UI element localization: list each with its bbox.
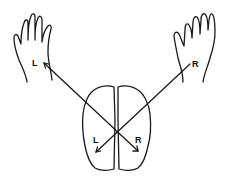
brain-left-label: L <box>93 135 99 145</box>
arrow-left-hand-to-right-hemisphere <box>44 63 138 151</box>
right-hand-icon <box>174 14 215 82</box>
left-hand-icon <box>14 14 52 82</box>
arrow-right-hand-to-left-hemisphere <box>96 64 190 152</box>
diagram-canvas: L R L R <box>0 0 230 189</box>
right-hand-label: R <box>192 59 199 69</box>
diagram-svg: L R L R <box>0 0 230 189</box>
brain-left-hemisphere <box>83 86 115 170</box>
brain-icon <box>83 86 151 170</box>
brain-right-hemisphere <box>118 86 151 170</box>
left-hand-label: L <box>32 58 38 68</box>
brain-right-label: R <box>135 135 142 145</box>
